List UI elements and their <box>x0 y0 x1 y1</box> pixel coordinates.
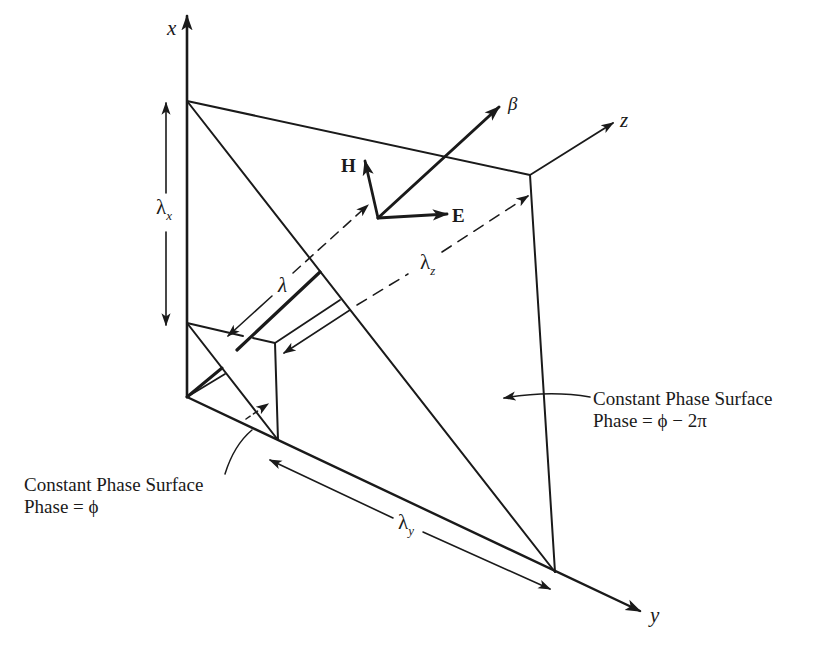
near-phase-surface <box>187 323 278 440</box>
far-surface-leader <box>504 394 590 398</box>
plane-wave-diagram <box>0 0 823 652</box>
h-vector <box>365 161 378 218</box>
far-surface-phase: Phase = ϕ − 2π <box>593 410 772 432</box>
near-surface-caption: Constant Phase Surface Phase = ϕ <box>24 474 203 518</box>
near-surface-title: Constant Phase Surface <box>24 474 203 496</box>
e-label: E <box>452 206 465 225</box>
lambda-z-label: λz <box>420 252 435 273</box>
lambda-arrow-lower <box>228 296 272 336</box>
near-surface-phase: Phase = ϕ <box>24 496 203 518</box>
y-axis <box>187 397 640 611</box>
lambda-y-arrow-left <box>270 460 393 518</box>
far-surface-caption: Constant Phase Surface Phase = ϕ − 2π <box>593 388 772 432</box>
y-axis-label: y <box>650 605 659 626</box>
beta-label: β <box>508 94 517 113</box>
e-vector <box>378 214 447 218</box>
far-surface-title: Constant Phase Surface <box>593 388 772 410</box>
beta-vector <box>378 107 499 218</box>
z-axis <box>530 123 613 175</box>
lambda-y-label: λy <box>398 512 414 533</box>
h-label: H <box>341 156 356 175</box>
lambda-label: λ <box>278 275 287 296</box>
z-axis-label: z <box>620 110 628 131</box>
x-axis-label: x <box>167 18 176 39</box>
lambda-arrow-upper <box>293 205 368 273</box>
lambda-x-label: λx <box>156 197 172 218</box>
wave-normal-thick <box>187 368 222 397</box>
lambda-z-arrow-lower-dash <box>357 274 408 305</box>
near-surface-leader <box>225 430 252 474</box>
